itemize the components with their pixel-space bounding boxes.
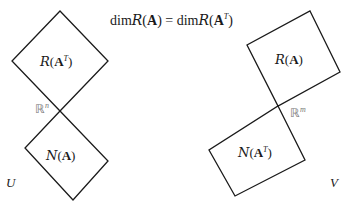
row-space-label: R(AT) [40,54,72,70]
matrix-a: A [254,145,263,160]
rm-label: ℝm [290,105,306,121]
equals-sign: = [165,13,173,28]
range-symbol: R [275,52,285,67]
dimension-sup: m [300,105,306,114]
dimension-sup: n [45,101,49,110]
range-symbol: R [198,12,209,28]
dim-text: dim [177,13,199,28]
matrix-a: A [289,52,298,67]
real-symbol: ℝ [290,106,300,120]
transpose-sup: T [64,54,68,63]
matrix-a: A [147,13,157,28]
range-symbol: R [132,12,143,28]
null-symbol: N [46,148,57,163]
matrix-a: A [54,54,63,69]
left-null-space-label: N(AT) [238,145,272,161]
transpose-sup: T [224,12,228,21]
space-v-label: V [330,175,338,191]
null-symbol: N [238,145,249,160]
null-space-label: N(A) [46,148,75,164]
space-u-label: U [6,175,15,191]
dim-text: dim [110,13,132,28]
matrix-a: A [214,13,224,28]
matrix-a: A [62,148,71,163]
real-symbol: ℝ [35,102,45,116]
rn-label: ℝn [35,101,49,117]
range-symbol: R [40,54,50,69]
diagram-shapes [0,0,348,203]
transpose-sup: T [263,145,267,154]
column-space-label: R(A) [275,52,303,68]
dimension-equation: dimR(A) = dimR(AT) [110,12,233,29]
